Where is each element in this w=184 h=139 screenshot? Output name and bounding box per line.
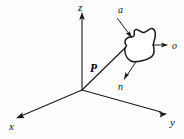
normal-vector-label: n — [118, 81, 123, 92]
approach-vector-line — [118, 19, 130, 35]
figure-container: z x y P a o n — [0, 0, 184, 139]
orientation-vector-o — [153, 43, 169, 48]
x-axis-line — [21, 90, 82, 116]
y-axis-line — [82, 90, 161, 112]
z-axis — [79, 12, 85, 90]
coordinate-frame-diagram: z x y P a o n — [0, 0, 184, 139]
position-vector-label: P — [90, 62, 98, 74]
normal-vector-line — [127, 61, 137, 76]
orientation-vector-label: o — [172, 40, 177, 51]
x-axis-label: x — [8, 120, 14, 132]
approach-vector-a — [118, 19, 133, 39]
y-axis — [82, 90, 167, 118]
normal-vector-n — [124, 61, 137, 80]
z-axis-label: z — [77, 1, 83, 13]
y-axis-label: y — [169, 116, 175, 128]
y-axis-arrowhead — [159, 111, 167, 117]
x-axis — [16, 90, 82, 118]
approach-vector-label: a — [118, 4, 123, 15]
